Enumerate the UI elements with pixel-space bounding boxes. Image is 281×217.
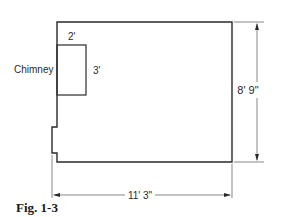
chimney-outline	[57, 45, 86, 95]
arrow-left-icon	[53, 193, 60, 197]
arrow-down-icon	[255, 154, 259, 161]
chimney-width-label: 2'	[68, 31, 76, 42]
chimney-label: Chimney	[14, 64, 53, 75]
room-outline	[52, 22, 232, 162]
figure-caption: Fig. 1-3	[16, 200, 58, 215]
chimney-depth-label: 3'	[93, 65, 101, 76]
floor-plan-diagram: Chimney 2' 3' 8' 9" 11' 3" Fig. 1-3	[0, 0, 281, 217]
room-width-label: 11' 3"	[128, 190, 153, 201]
room-height-label: 8' 9"	[237, 84, 258, 96]
arrow-right-icon	[224, 193, 231, 197]
arrow-up-icon	[255, 23, 259, 30]
